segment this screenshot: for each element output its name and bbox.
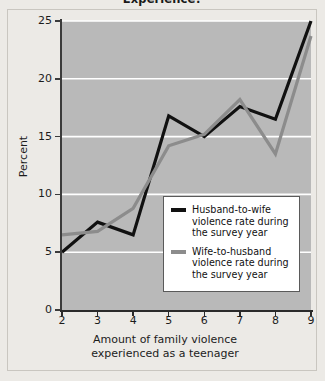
x-axis-label: Amount of family violence experienced as… bbox=[40, 333, 290, 360]
x-axis-label-line2: experienced as a teenager bbox=[40, 347, 290, 361]
y-axis-line bbox=[60, 19, 62, 312]
legend-swatch-icon bbox=[171, 250, 186, 254]
y-tick-label: 0 bbox=[0, 303, 52, 316]
legend-label-line3: the survey year bbox=[192, 269, 268, 280]
legend-label-line1: Wife-to-husband bbox=[192, 246, 271, 257]
x-tick-mark bbox=[204, 311, 206, 316]
legend-label-line3: the survey year bbox=[192, 227, 268, 238]
x-tick-mark bbox=[132, 311, 134, 316]
y-tick-mark bbox=[55, 20, 60, 22]
y-tick-mark bbox=[55, 194, 60, 196]
y-tick-mark bbox=[55, 309, 60, 311]
legend-item-wife-to-husband: Wife-to-husband violence rate during the… bbox=[171, 246, 293, 281]
x-tick-mark bbox=[239, 311, 241, 316]
chart-legend: Husband-to-wife violence rate during the… bbox=[163, 196, 300, 292]
y-tick-mark bbox=[55, 78, 60, 80]
legend-label: Husband-to-wife violence rate during the… bbox=[192, 204, 289, 239]
y-tick-mark bbox=[55, 251, 60, 253]
legend-label: Wife-to-husband violence rate during the… bbox=[192, 246, 289, 281]
y-axis-label: Percent bbox=[17, 112, 30, 202]
y-tick-label: 20 bbox=[0, 72, 52, 85]
y-tick-label: 25 bbox=[0, 14, 52, 27]
legend-label-line1: Husband-to-wife bbox=[192, 204, 271, 215]
legend-swatch-icon bbox=[171, 208, 186, 212]
chart-figure: Experience? 0510152025 23456789 Percent … bbox=[0, 0, 325, 381]
x-tick-mark bbox=[97, 311, 99, 316]
legend-label-line2: violence rate during bbox=[192, 257, 289, 268]
x-tick-mark bbox=[310, 311, 312, 316]
y-tick-label: 5 bbox=[0, 245, 52, 258]
chart-title: Experience? bbox=[0, 0, 325, 6]
legend-item-husband-to-wife: Husband-to-wife violence rate during the… bbox=[171, 204, 293, 239]
legend-label-line2: violence rate during bbox=[192, 216, 289, 227]
x-tick-mark bbox=[275, 311, 277, 316]
y-tick-mark bbox=[55, 136, 60, 138]
x-tick-mark bbox=[61, 311, 63, 316]
x-axis-label-line1: Amount of family violence bbox=[40, 333, 290, 347]
x-tick-mark bbox=[168, 311, 170, 316]
